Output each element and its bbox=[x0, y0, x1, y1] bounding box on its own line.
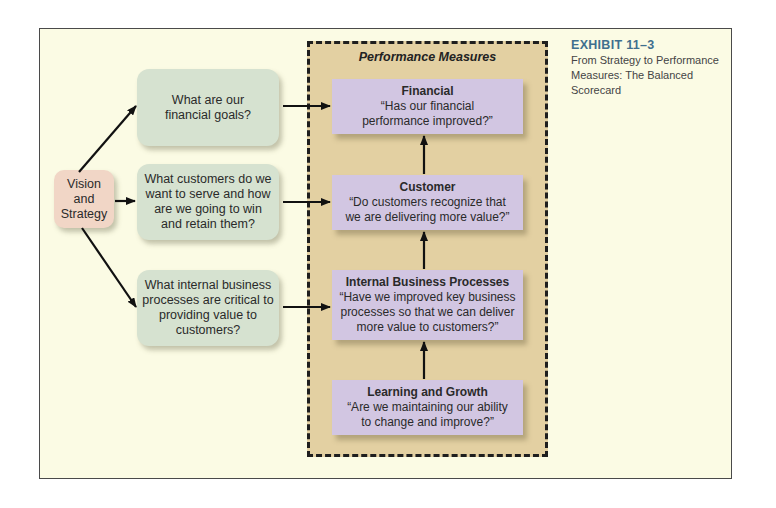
arrow-vision-to-internal-q bbox=[82, 228, 136, 307]
connector-arrows bbox=[0, 0, 776, 508]
arrow-vision-to-financial-q bbox=[79, 106, 136, 172]
